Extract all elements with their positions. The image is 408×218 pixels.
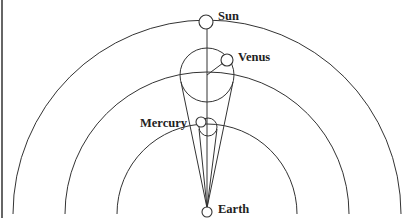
mercury-tangent-left — [199, 129, 207, 208]
earth-body — [202, 207, 212, 217]
venus-radius — [207, 63, 223, 75]
earth-label: Earth — [218, 202, 249, 216]
mercury-body — [196, 117, 206, 127]
venus-tangent-right — [207, 82, 233, 208]
venus-body — [221, 54, 233, 66]
sun-label: Sun — [218, 9, 239, 23]
sun-body — [199, 15, 213, 29]
venus-tangent-left — [181, 82, 207, 208]
venus-label: Venus — [238, 50, 270, 64]
geocentric-diagram: Sun Venus Mercury Earth — [0, 0, 408, 218]
mercury-label: Mercury — [140, 116, 188, 130]
